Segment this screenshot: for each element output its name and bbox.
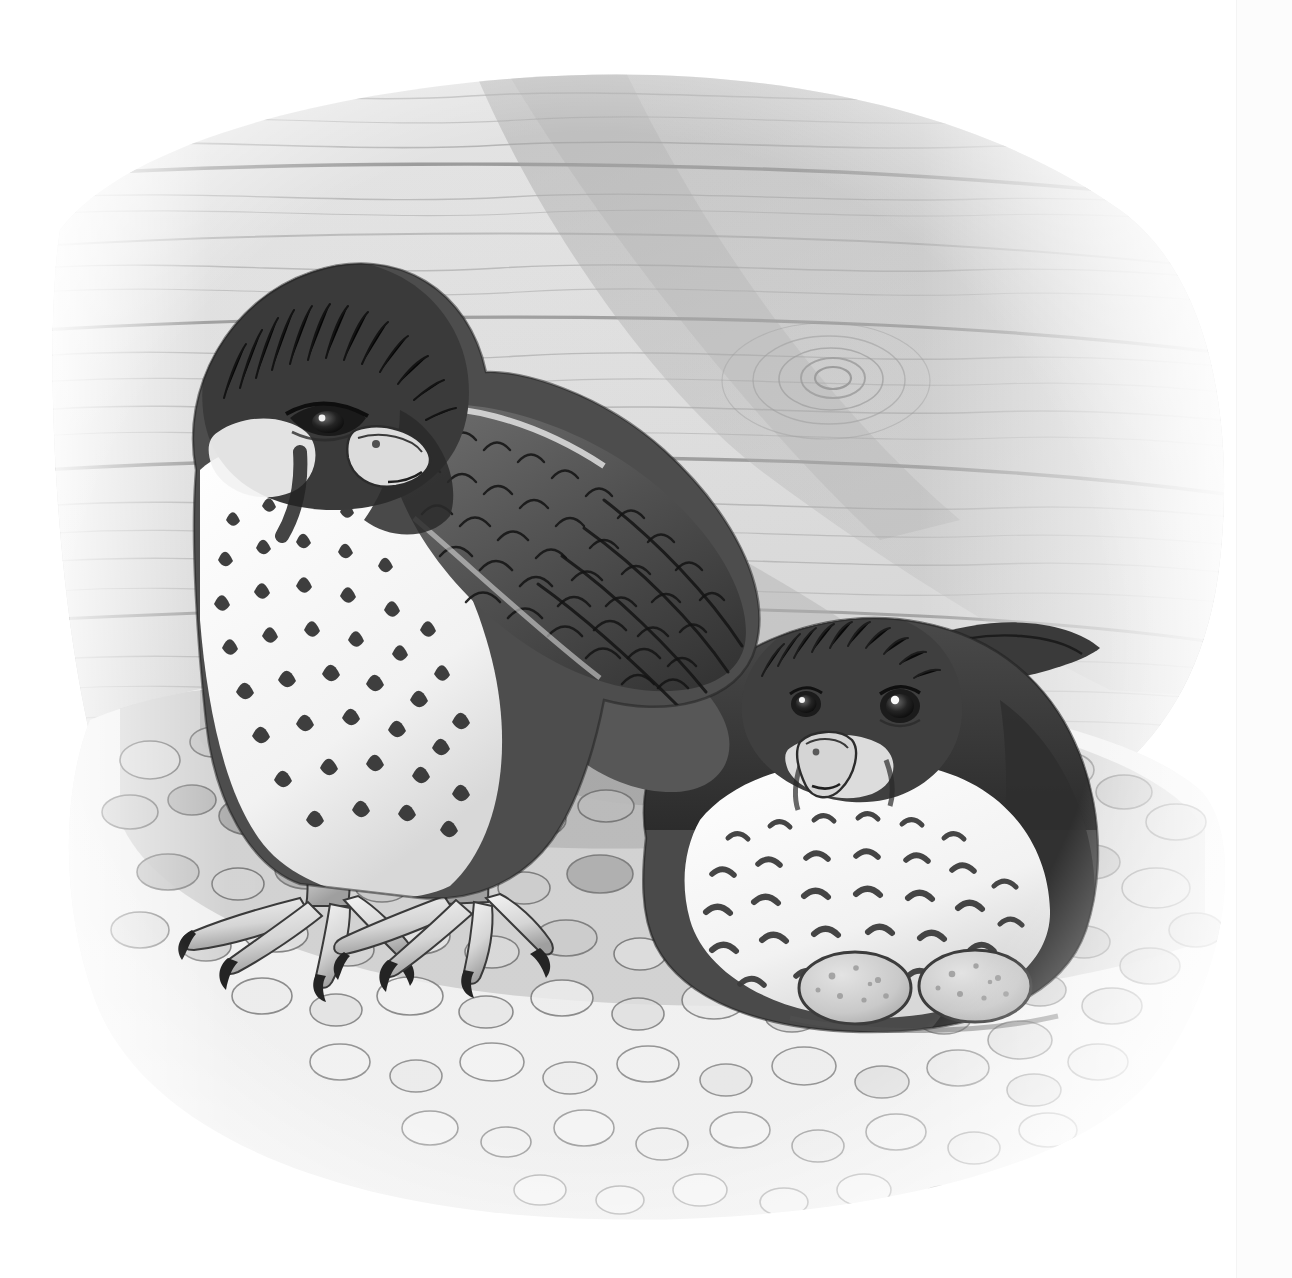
paper-vignette: [0, 0, 1292, 1278]
falcon-nest-illustration: [0, 0, 1292, 1278]
illustration-plate: [0, 0, 1292, 1278]
